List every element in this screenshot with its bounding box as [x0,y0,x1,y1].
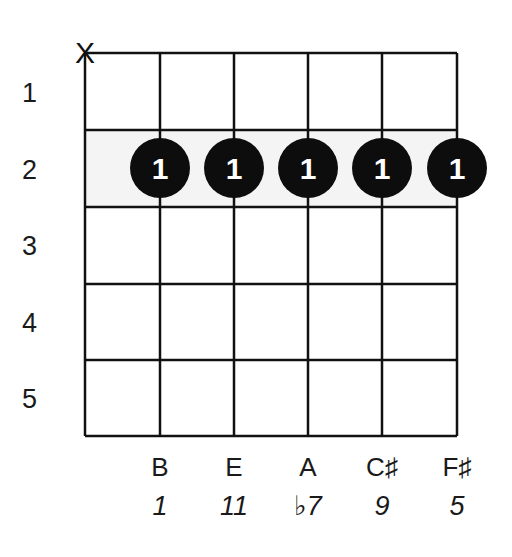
note-name: A [278,454,338,480]
chord-diagram: 1 1 1 1 1 X 1 2 3 4 5 B E A C♯ F♯ 1 11 ♭… [0,0,512,557]
svg-text:1: 1 [152,152,169,185]
interval-label: 1 [130,493,190,520]
note-name: E [204,454,264,480]
fret-label-5: 5 [22,386,62,413]
finger-dot: 1 [427,138,487,198]
muted-string-icon: X [75,38,95,68]
finger-dot: 1 [204,138,264,198]
fret-label-2: 2 [22,157,62,184]
fret-label-3: 3 [22,233,62,260]
svg-text:1: 1 [374,152,391,185]
string-lines [85,53,457,436]
note-name: C♯ [352,454,412,480]
interval-label: 9 [352,493,412,520]
interval-label: 5 [427,493,487,520]
finger-dot: 1 [352,138,412,198]
note-name: B [130,454,190,480]
interval-label: ♭7 [278,493,338,520]
interval-label: 11 [204,493,264,520]
finger-dot: 1 [130,138,190,198]
fret-label-1: 1 [22,80,62,107]
note-name: F♯ [427,454,487,480]
fret-lines [85,53,457,436]
svg-text:1: 1 [300,152,317,185]
fret-label-4: 4 [22,310,62,337]
svg-text:1: 1 [226,152,243,185]
finger-dot: 1 [278,138,338,198]
svg-text:1: 1 [449,152,466,185]
